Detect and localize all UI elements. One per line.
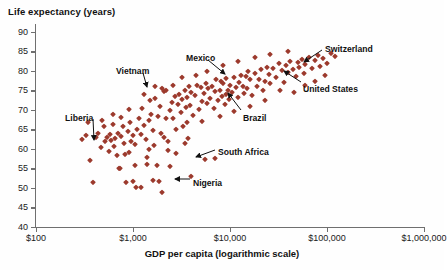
data-point [167,164,172,169]
data-point [274,74,279,79]
data-point [130,178,135,183]
x-axis-tick-label: $100 [26,233,46,243]
y-axis-tick-label: 40 [18,222,28,232]
data-point [312,78,317,83]
annotation-label-south-africa: South Africa [218,147,269,157]
x-axis-tick-label: $100,000 [308,233,346,243]
data-point [94,135,99,140]
data-point [178,109,183,114]
data-point [184,120,189,125]
data-point [142,122,147,127]
data-point [143,137,148,142]
data-point [133,162,138,167]
data-point [193,93,198,98]
data-point [127,119,132,124]
data-point [302,70,307,75]
data-point [140,105,145,110]
data-point [268,81,273,86]
data-point [154,163,159,168]
data-point [181,123,186,128]
data-point [276,60,281,65]
data-point [322,72,327,77]
data-point [142,92,147,97]
annotation-label-mexico: Mexico [186,53,215,63]
data-point [318,64,323,69]
data-point [110,121,115,126]
annotation-arrows [36,24,424,227]
data-point [194,72,199,77]
data-point [246,68,251,73]
data-point [138,132,143,137]
y-axis-tick [31,110,36,111]
data-point [303,61,308,66]
y-axis-tick-label: 65 [18,124,28,134]
data-point [263,98,268,103]
data-point [279,68,284,73]
data-point [101,124,106,129]
data-point [271,65,276,70]
data-point [152,142,157,147]
y-axis-tick-label: 55 [18,163,28,173]
data-point [169,100,174,105]
data-point [294,73,299,78]
y-axis-tick-label: 50 [18,183,28,193]
data-point [182,88,187,93]
data-point [164,87,169,92]
data-point [264,64,269,69]
x-axis-title: GDP per capita (logarithmic scale) [0,248,444,259]
data-point [222,101,227,106]
data-point [245,86,250,91]
data-point [286,69,291,74]
data-point [324,60,329,65]
data-point [295,60,300,65]
data-point [250,93,255,98]
data-point [138,185,143,190]
data-point [191,112,196,117]
plot-area: 9085807570656055504540$100$1,000$10,000$… [36,24,424,227]
data-point [91,180,96,185]
y-axis-tick-label: 75 [18,85,28,95]
data-point [124,180,129,185]
data-point [106,148,111,153]
data-point [114,152,119,157]
y-axis-title: Life expectancy (years) [8,6,115,17]
data-point [153,83,158,88]
y-axis-tick [31,207,36,208]
data-point [266,71,271,76]
data-point [217,87,222,92]
y-axis-tick-label: 85 [18,46,28,56]
data-point [134,126,139,131]
data-point [188,103,193,108]
data-point [167,107,172,112]
data-point [201,91,206,96]
data-point [252,70,257,75]
x-axis-tick [36,227,37,232]
data-point [136,115,141,120]
data-point [155,113,160,118]
data-point [149,111,154,116]
data-point [96,130,101,135]
y-axis-tick-label: 70 [18,105,28,115]
x-axis-tick-label: $1,000,000 [401,233,446,243]
data-point [205,68,210,73]
x-axis-tick [230,227,231,232]
y-axis-tick [31,71,36,72]
data-point [197,107,202,112]
data-point [100,117,105,122]
data-point [198,85,203,90]
data-point [312,57,317,62]
data-point [332,53,337,58]
data-point [254,83,259,88]
data-point [297,64,302,69]
data-point [209,83,214,88]
data-point [171,116,176,121]
data-point [200,118,205,123]
data-point [99,144,104,149]
x-axis-tick [424,227,425,232]
data-point [120,123,125,128]
data-point [281,79,286,84]
data-point [217,113,222,118]
data-point [278,87,283,92]
data-point [119,134,124,139]
